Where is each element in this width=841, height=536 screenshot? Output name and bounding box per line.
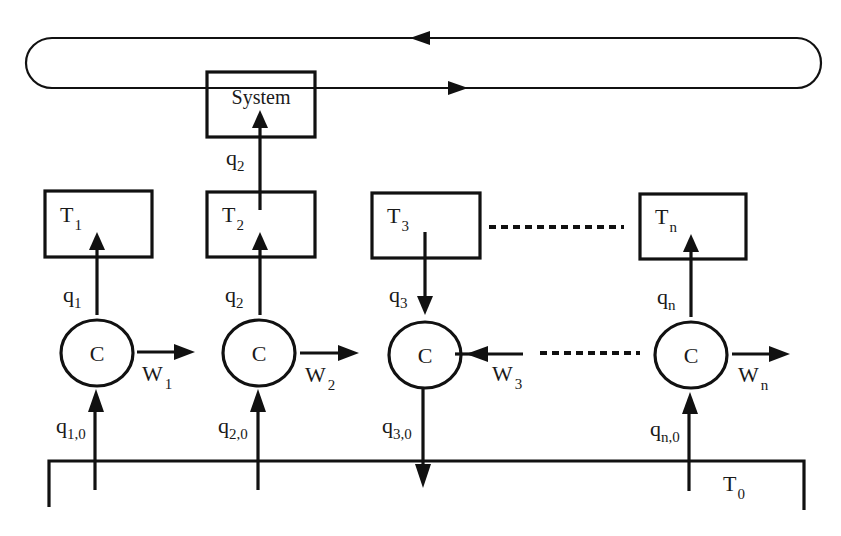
arrow-right-icon bbox=[174, 344, 195, 360]
work-label-2: W2 bbox=[305, 362, 335, 393]
arrow-down-icon bbox=[415, 464, 431, 488]
tank-flow-label-2: q2 bbox=[225, 282, 244, 311]
reservoir-flow-label-2: q2,0 bbox=[218, 413, 248, 442]
svg-text:C: C bbox=[684, 343, 699, 368]
svg-text:C: C bbox=[418, 343, 433, 368]
arrow-up-icon bbox=[682, 392, 698, 414]
arrow-up-icon bbox=[88, 389, 104, 412]
compressor-2: C bbox=[223, 320, 295, 386]
svg-text:C: C bbox=[252, 341, 267, 366]
work-label-1: W1 bbox=[142, 361, 172, 392]
tank-flow-label-n: qn bbox=[657, 284, 676, 313]
work-label-n: Wn bbox=[738, 362, 769, 393]
arrow-up-icon bbox=[252, 110, 268, 128]
arrow-up-icon bbox=[89, 232, 105, 250]
tank-flow-label-3: q3 bbox=[389, 282, 408, 311]
compressor-3: C bbox=[389, 322, 461, 388]
system-label: System bbox=[232, 86, 291, 109]
arrow-up-icon bbox=[683, 234, 699, 252]
svg-text:T2: T2 bbox=[222, 202, 244, 233]
tank-flow-label-1: q1 bbox=[63, 282, 82, 311]
svg-text:Tn: Tn bbox=[655, 204, 677, 235]
svg-text:T3: T3 bbox=[387, 203, 409, 234]
reservoir-flow-label-n: qn,0 bbox=[650, 416, 680, 445]
loop-arrow-right-icon bbox=[448, 81, 468, 95]
loop-arrow-left-icon bbox=[410, 31, 430, 45]
heat-pump-network-diagram: System q2 T1 T2 T3 Tn q1 q2 q3 qn C bbox=[0, 0, 841, 536]
reservoir-label: T0 bbox=[723, 471, 745, 502]
arrow-right-icon bbox=[338, 345, 359, 361]
reservoir-flow-label-3: q3,0 bbox=[382, 413, 412, 442]
arrow-up-icon bbox=[250, 389, 266, 412]
compressor-1: C bbox=[61, 320, 133, 386]
arrow-right-icon bbox=[769, 346, 790, 362]
svg-text:C: C bbox=[90, 341, 105, 366]
compressor-n: C bbox=[655, 322, 727, 388]
work-label-3: W3 bbox=[492, 361, 522, 392]
system-flow-label: q2 bbox=[226, 145, 245, 174]
arrow-up-icon bbox=[252, 232, 268, 250]
arrow-down-icon bbox=[417, 296, 433, 315]
arrow-left-icon bbox=[466, 346, 488, 362]
system-loop bbox=[26, 38, 821, 88]
reservoir-flow-label-1: q1,0 bbox=[56, 413, 86, 442]
svg-text:T1: T1 bbox=[60, 202, 82, 233]
